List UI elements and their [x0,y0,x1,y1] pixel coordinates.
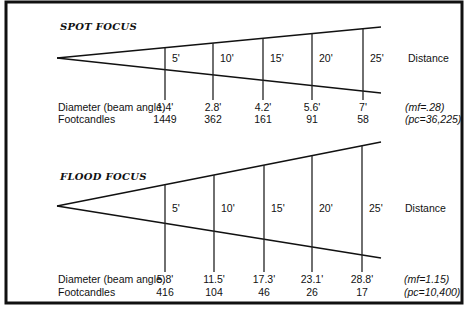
beam-spread-diagram: SPOT FOCUS 5'1.4'144910'2.8'36215'4.2'16… [0,0,469,315]
distance-label: 15' [271,202,285,214]
footcandles-row-label: Footcandles [58,286,115,298]
mf-note: (mf=.28) [405,101,444,113]
diameter-row-label: Diameter (beam angle) [58,101,165,113]
footcandles-row-label: Footcandles [58,113,115,125]
distance-label: 20' [319,52,333,64]
diameter-value: 7' [359,101,367,113]
distance-label: 20' [319,202,333,214]
footcandle-value: 161 [254,113,272,125]
pc-note: (pc=36,225) [405,113,461,125]
diameter-value: 4.2' [255,101,272,113]
diameter-value: 28.8' [351,273,373,285]
panel-title: FLOOD FOCUS [59,171,147,182]
footcandle-value: 416 [156,286,174,298]
footcandle-value: 362 [204,113,222,125]
diameter-value: 23.1' [301,273,323,285]
footcandle-value: 1449 [153,113,177,125]
footcandle-value: 46 [258,286,270,298]
distance-axis-label: Distance [408,52,449,64]
distance-label: 25' [369,202,383,214]
diameter-value: 5.6' [304,101,321,113]
distance-axis-label: Distance [405,202,446,214]
footcandle-value: 26 [306,286,318,298]
footcandle-value: 58 [357,113,369,125]
panel-title: SPOT FOCUS [60,21,137,32]
diameter-value: 2.8' [205,101,222,113]
footcandle-value: 104 [205,286,223,298]
footcandle-value: 17 [356,286,368,298]
distance-label: 10' [220,52,234,64]
distance-label: 25' [370,52,384,64]
pc-note: (pc=10,400) [404,286,460,298]
diagram-frame [6,2,462,303]
footcandle-value: 91 [306,113,318,125]
diameter-value: 11.5' [203,273,225,285]
distance-label: 5' [172,52,180,64]
mf-note: (mf=1.15) [404,273,449,285]
diameter-value: 17.3' [253,273,275,285]
distance-label: 5' [172,202,180,214]
distance-label: 15' [270,52,284,64]
diameter-row-label: Diameter (beam angle) [58,273,165,285]
distance-label: 10' [221,202,235,214]
